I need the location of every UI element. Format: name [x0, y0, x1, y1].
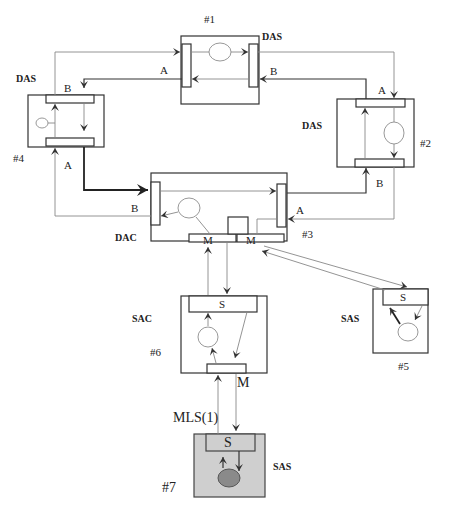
- station-1-number: #1: [204, 13, 215, 25]
- station-3-mac-icon: [178, 198, 200, 218]
- station-7-port-s-label: S: [224, 435, 232, 450]
- mls-link-label: MLS(1): [173, 410, 218, 426]
- link-5-to-3: [262, 251, 385, 290]
- station-3-port-m1-label: M: [203, 234, 213, 246]
- station-6-mac-icon: [198, 327, 218, 347]
- link-4-to-3: [84, 147, 148, 190]
- station-7-number: #7: [162, 480, 176, 495]
- link-3-to-2: [287, 168, 366, 193]
- link-1-to-4: [84, 79, 182, 88]
- station-4-type: DAS: [16, 73, 36, 84]
- station-4-port-a: [46, 138, 94, 146]
- station-3-port-m2-label: M: [246, 234, 256, 246]
- station-3-port-a-label: A: [296, 204, 304, 216]
- link-2-to-1: [260, 79, 366, 99]
- station-5-port-s-label: S: [400, 291, 406, 303]
- station-3-number: #3: [302, 228, 314, 240]
- station-6-port-m-label: M: [237, 375, 250, 390]
- station-2: [337, 99, 414, 167]
- station-3: [151, 173, 287, 242]
- station-4-number: #4: [13, 152, 25, 164]
- station-2-number: #2: [420, 137, 431, 149]
- station-6-number: #6: [150, 346, 162, 358]
- station-2-type: DAS: [302, 120, 322, 131]
- station-3-port-b-label: B: [131, 202, 138, 214]
- station-5-mac-icon: [398, 323, 418, 341]
- station-4-port-a-label: A: [64, 159, 72, 171]
- station-3-concentrator-block: [228, 217, 248, 234]
- link-3-to-5: [264, 246, 407, 287]
- station-2-port-a: [356, 99, 405, 107]
- station-1-port-a-label: A: [160, 64, 168, 76]
- station-4-port-b-label: B: [64, 82, 71, 94]
- link-1-to-2: [258, 52, 394, 98]
- station-1: [181, 36, 259, 104]
- station-3-type: DAC: [115, 232, 137, 243]
- station-4: [28, 95, 104, 147]
- station-1-port-b: [249, 44, 258, 87]
- station-1-type: DAS: [262, 31, 282, 42]
- station-3-port-m2: [237, 234, 284, 242]
- station-7-mac-icon: [218, 469, 240, 487]
- station-6-type: SAC: [132, 313, 152, 324]
- station-2-port-a-label: A: [378, 84, 386, 96]
- station-7-type: SAS: [273, 461, 292, 472]
- station-1-mac-icon: [209, 43, 231, 61]
- station-3-box: [151, 173, 287, 241]
- station-1-port-b-label: B: [270, 65, 277, 77]
- station-2-mac-icon: [384, 122, 404, 144]
- station-6-port-s-label: S: [219, 298, 225, 310]
- station-5-type: SAS: [341, 313, 360, 324]
- station-1-port-a: [182, 44, 191, 87]
- station-4-port-b: [46, 95, 94, 103]
- station-4-mac-icon: [36, 118, 48, 128]
- station-5-number: #5: [398, 360, 410, 372]
- fddi-diagram: #1 DAS DAS #4 B A A DAS #2 A B B: [0, 0, 450, 516]
- station-2-port-b-label: B: [376, 177, 383, 189]
- station-3-port-a: [277, 184, 286, 227]
- station-2-port-b: [355, 159, 404, 167]
- station-3-port-b: [151, 182, 160, 225]
- station-6-port-m: [207, 364, 246, 373]
